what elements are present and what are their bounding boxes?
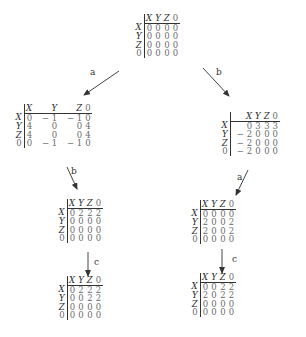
matrix-cell: 0 — [171, 49, 179, 58]
edge-label-a: a — [90, 67, 95, 77]
matrix-cell: − 1 — [34, 139, 59, 148]
column-header: Y — [254, 112, 263, 121]
row-header: 0 — [57, 234, 67, 243]
column-header: Z — [85, 199, 94, 208]
matrix-after-ba: XYZ0X0000Y2002Z200200000 — [190, 200, 236, 244]
column-header: Z — [59, 104, 84, 113]
column-header: Y — [210, 273, 219, 282]
matrix-cell: 0 — [67, 311, 77, 320]
column-header: 0 — [84, 104, 92, 113]
matrix-after-ab: XYZ0X0222Y0000Z000000000 — [57, 199, 103, 243]
row-header: 0 — [190, 308, 200, 317]
matrix-cell: 0 — [210, 235, 219, 244]
column-header: X — [230, 112, 254, 121]
matrix-root: XYZ0X0000Y0000Z000000000 — [134, 14, 180, 58]
matrix-cell: − 2 — [230, 147, 254, 156]
column-header: X — [200, 200, 210, 209]
matrix-cell: 0 — [77, 234, 86, 243]
row-header: 0 — [57, 311, 67, 320]
matrix-header-row: XYZ0 — [14, 104, 92, 113]
matrix-row: 0− 2000 — [220, 147, 280, 156]
matrix-row: 00000 — [57, 234, 103, 243]
edge-label-b: b — [216, 67, 222, 77]
matrix-row: 00000 — [57, 311, 103, 320]
matrix-cell: 0 — [94, 311, 102, 320]
matrix-after-abc: XYZ0X0222Y0022Z000000000 — [57, 276, 103, 320]
matrix-cell: 0 — [85, 234, 94, 243]
edge-label-b: b — [71, 166, 77, 176]
column-header: X — [24, 104, 34, 113]
column-header: 0 — [271, 112, 279, 121]
column-header: 0 — [171, 14, 179, 23]
column-header: Y — [34, 104, 59, 113]
row-header: 0 — [220, 147, 230, 156]
matrix-cell: 0 — [84, 139, 92, 148]
column-header: Z — [218, 200, 227, 209]
matrix-cell: 0 — [227, 308, 235, 317]
matrix-after-b: XYZ0X0333Y− 2000Z− 20000− 2000 — [220, 112, 280, 156]
row-header: 0 — [190, 235, 200, 244]
matrix-cell: 0 — [77, 311, 86, 320]
matrix-cell: 0 — [218, 235, 227, 244]
column-header: Z — [218, 273, 227, 282]
matrix-row: 00− 1− 10 — [14, 139, 92, 148]
edge-label-c: c — [94, 257, 99, 267]
row-header: 0 — [134, 49, 144, 58]
matrix-cell: 0 — [271, 147, 279, 156]
matrix-cell: 0 — [94, 234, 102, 243]
column-header: X — [67, 276, 77, 285]
matrix-cell: 0 — [162, 49, 171, 58]
column-header: Z — [162, 14, 171, 23]
matrix-after-a: XYZ0X0− 1− 10Y4004Z400400− 1− 10 — [14, 104, 92, 148]
matrix-cell: − 1 — [59, 139, 84, 148]
column-header: 0 — [94, 199, 102, 208]
matrix-cell: 0 — [254, 147, 263, 156]
matrix-header-row: XYZ0 — [220, 112, 280, 121]
matrix-row: 00000 — [190, 235, 236, 244]
matrix-cell: 0 — [200, 308, 210, 317]
matrix-cell: 0 — [210, 308, 219, 317]
row-header: 0 — [14, 139, 24, 148]
matrix-cell: 0 — [262, 147, 271, 156]
matrix-cell: 0 — [85, 311, 94, 320]
column-header: Z — [85, 276, 94, 285]
column-header: X — [144, 14, 154, 23]
matrix-cell: 0 — [67, 234, 77, 243]
matrix-cell: 0 — [144, 49, 154, 58]
edge-label-a: a — [237, 172, 242, 182]
matrix-cell: 0 — [154, 49, 163, 58]
column-header: Y — [77, 276, 86, 285]
column-header: 0 — [94, 276, 102, 285]
column-header: X — [200, 273, 210, 282]
matrix-after-bac: XYZ0X0022Y2022Z000000000 — [190, 273, 236, 317]
column-header: 0 — [227, 273, 235, 282]
matrix-row: 00000 — [190, 308, 236, 317]
column-header: Y — [77, 199, 86, 208]
column-header: Y — [210, 200, 219, 209]
column-header: Y — [154, 14, 163, 23]
matrix-row: 00000 — [134, 49, 180, 58]
column-header: 0 — [227, 200, 235, 209]
matrix-cell: 0 — [218, 308, 227, 317]
matrix-cell: 0 — [200, 235, 210, 244]
column-header: Z — [262, 112, 271, 121]
column-header: X — [67, 199, 77, 208]
matrix-cell: 0 — [227, 235, 235, 244]
edge-label-c: c — [232, 254, 237, 264]
matrix-cell: 0 — [24, 139, 34, 148]
